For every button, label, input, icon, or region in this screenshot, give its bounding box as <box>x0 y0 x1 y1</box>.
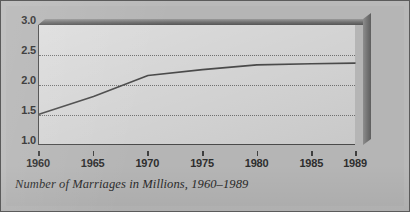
y-tick-label: 2.5 <box>10 45 36 56</box>
figure-frame: 3.0 2.5 2.0 1.5 1.0 <box>0 0 410 212</box>
x-tick-label: 1989 <box>335 157 375 169</box>
plot-area <box>38 25 355 145</box>
plot-3d-frame <box>38 19 371 151</box>
figure-caption: Number of Marriages in Millions, 1960–19… <box>15 177 248 192</box>
x-tick-label: 1970 <box>127 157 167 169</box>
line-chart: 3.0 2.5 2.0 1.5 1.0 <box>6 6 404 174</box>
x-tick-label: 1965 <box>73 157 113 169</box>
figure-inner-margin: 3.0 2.5 2.0 1.5 1.0 <box>6 6 404 206</box>
y-tick-label: 3.0 <box>10 15 36 26</box>
x-tick-label: 1975 <box>182 157 222 169</box>
x-tick <box>355 151 357 156</box>
y-tick-label: 2.0 <box>10 75 36 86</box>
x-tick <box>147 151 149 156</box>
x-tick <box>257 151 259 156</box>
y-axis: 3.0 2.5 2.0 1.5 1.0 <box>8 6 36 174</box>
y-tick-label: 1.0 <box>10 135 36 146</box>
x-tick <box>38 151 40 156</box>
x-tick <box>202 151 204 156</box>
x-tick-label: 1980 <box>237 157 277 169</box>
y-tick-label: 1.5 <box>10 105 36 116</box>
x-axis: 1960 1965 1970 1975 1980 1985 1989 <box>38 151 371 174</box>
x-tick-label: 1960 <box>18 157 58 169</box>
plot-right-side-panel <box>363 13 371 145</box>
x-tick-label: 1985 <box>291 157 331 169</box>
x-tick <box>311 151 313 156</box>
x-tick <box>93 151 95 156</box>
series-line-marriages <box>39 25 355 144</box>
